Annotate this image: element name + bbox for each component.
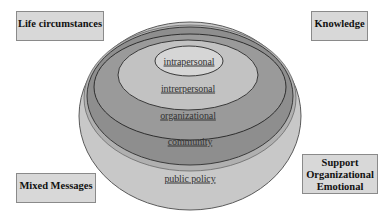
box-support-line-3: Emotional bbox=[317, 181, 364, 193]
box-life-circumstances: Life circumstances bbox=[16, 11, 104, 41]
box-support-line-1: Support bbox=[322, 157, 359, 169]
box-mixed-messages-text: Mixed Messages bbox=[19, 180, 92, 192]
box-knowledge: Knowledge bbox=[311, 11, 368, 41]
label-organizational: organizational bbox=[160, 110, 216, 121]
box-support: Support Organizational Emotional bbox=[302, 154, 378, 194]
label-public-policy: public policy bbox=[164, 173, 215, 184]
box-mixed-messages: Mixed Messages bbox=[16, 173, 96, 203]
diagram-stage: intrapersonal intrerpersonal organizatio… bbox=[0, 0, 392, 221]
box-support-line-2: Organizational bbox=[306, 169, 374, 181]
label-interpersonal: intrerpersonal bbox=[161, 83, 215, 94]
box-life-circumstances-text: Life circumstances bbox=[18, 18, 102, 30]
box-knowledge-text: Knowledge bbox=[314, 18, 364, 30]
label-community: community bbox=[168, 136, 213, 147]
label-intrapersonal: intrapersonal bbox=[164, 56, 215, 67]
